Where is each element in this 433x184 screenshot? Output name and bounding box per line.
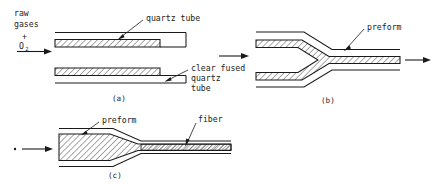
caption-a: (a) — [112, 94, 126, 103]
dot-icon — [14, 148, 16, 150]
label-preform-c: preform — [81, 115, 137, 135]
caption-c: (c) — [108, 171, 122, 180]
label-fiber-text: fiber — [198, 114, 223, 124]
panel-b-inlet-arrow — [219, 53, 249, 59]
inlet-oxygen-text: O — [19, 41, 24, 51]
label-clear-fused-line3: tube — [191, 83, 211, 93]
panel-a: quartz tube clear fused quartz tube raw … — [14, 8, 245, 103]
panel-b-outlet-arrow — [405, 57, 431, 63]
inlet-oxygen-subscript: 2 — [25, 46, 28, 52]
panel-a-upper-tube — [55, 33, 186, 48]
label-clear-fused-quartz-tube: clear fused quartz tube — [165, 63, 246, 93]
panel-c: preform fiber (c) — [14, 114, 231, 180]
panel-c-inlet — [14, 146, 53, 152]
caption-b: (b) — [321, 96, 335, 105]
label-clear-fused-line2: quartz — [191, 73, 221, 83]
label-preform-b: preform — [344, 22, 402, 51]
inlet-raw-text: raw — [14, 8, 29, 18]
label-preform-c-text: preform — [102, 115, 137, 125]
label-preform-b-text: preform — [367, 22, 402, 32]
figure-canvas: quartz tube clear fused quartz tube raw … — [0, 0, 433, 184]
label-quartz-tube-text: quartz tube — [146, 13, 200, 23]
label-quartz-tube: quartz tube — [118, 13, 201, 40]
panel-b-preform-body — [256, 40, 400, 80]
panel-b: preform (b) — [219, 22, 431, 105]
label-clear-fused-line1: clear fused — [191, 63, 245, 73]
label-fiber: fiber — [185, 114, 222, 147]
fiber-fabrication-figure: quartz tube clear fused quartz tube raw … — [0, 0, 433, 184]
inlet-gases-text: gases — [14, 19, 39, 29]
